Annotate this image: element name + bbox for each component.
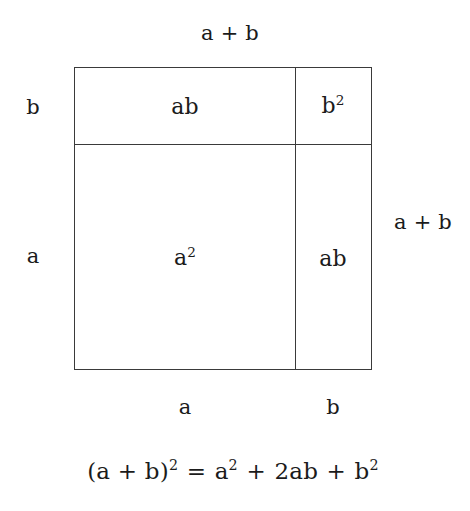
equation-plus-1: + bbox=[245, 458, 266, 484]
cell-label-top-left: ab bbox=[171, 96, 199, 118]
edge-label-top: a + b bbox=[201, 23, 259, 44]
equation-lhs-open: (a + b) bbox=[87, 458, 169, 484]
cell-label-bottom-right: ab bbox=[319, 248, 347, 270]
equation-plus-2: + bbox=[326, 458, 347, 484]
cell-bottom-left-base: a bbox=[174, 245, 187, 270]
equation-equals: = bbox=[186, 458, 207, 484]
edge-label-bottom-left: a bbox=[179, 397, 192, 418]
vertical-divider bbox=[295, 67, 296, 370]
edge-label-left-upper: b bbox=[26, 97, 40, 118]
cell-bottom-left-exponent: 2 bbox=[187, 244, 196, 260]
edge-label-right: a + b bbox=[394, 212, 452, 233]
horizontal-divider bbox=[74, 144, 372, 145]
equation-term2: 2ab bbox=[274, 458, 318, 484]
identity-equation: (a + b)2 = a2 + 2ab + b2 bbox=[87, 460, 379, 483]
equation-term1-exponent: 2 bbox=[229, 457, 238, 473]
equation-term3-base: b bbox=[355, 458, 370, 484]
edge-label-bottom-right: b bbox=[326, 397, 340, 418]
cell-top-right-exponent: 2 bbox=[336, 92, 345, 108]
edge-label-left-lower: a bbox=[27, 246, 40, 267]
algebra-area-diagram: a + b b a a + b ab b2 a2 ab a b (a + b)2… bbox=[0, 0, 470, 511]
cell-label-bottom-left: a2 bbox=[174, 247, 196, 269]
cell-label-top-right: b2 bbox=[321, 95, 344, 117]
equation-lhs-exponent: 2 bbox=[169, 457, 178, 473]
cell-top-right-base: b bbox=[321, 93, 335, 118]
cell-bottom-right-base: ab bbox=[319, 246, 347, 271]
cell-top-left-base: ab bbox=[171, 94, 199, 119]
equation-term3-exponent: 2 bbox=[370, 457, 379, 473]
equation-term1-base: a bbox=[215, 458, 229, 484]
